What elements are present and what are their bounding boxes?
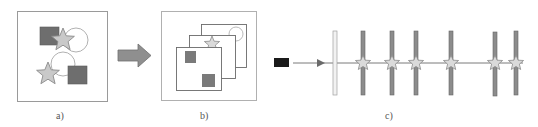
panel-a-label: a)	[56, 110, 64, 122]
panel-a: a)	[18, 12, 108, 123]
panel-b: b)	[162, 12, 257, 123]
dark-square-2	[68, 66, 87, 84]
right-arrow-icon	[118, 44, 151, 67]
panel-c: c)	[274, 31, 524, 122]
layer-front-square-1	[185, 51, 196, 63]
panel-b-label: b)	[200, 110, 208, 122]
ray-arrowhead	[317, 59, 325, 67]
panel-c-label: c)	[385, 110, 393, 122]
layer-front-square-2	[202, 74, 215, 87]
plane-light	[333, 31, 337, 95]
camera-icon	[274, 58, 289, 67]
diagram-canvas: a) b) c	[0, 0, 538, 127]
